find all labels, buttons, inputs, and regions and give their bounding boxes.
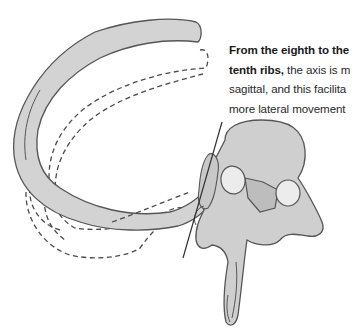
caption-line-1: From the eighth to the — [229, 40, 355, 60]
caption-line-3: sagittal, and this facilita — [229, 79, 355, 99]
figure-caption: From the eighth to the tenth ribs, the a… — [229, 40, 355, 118]
rib-icon — [14, 19, 212, 230]
caption-bold-2: tenth ribs, — [229, 63, 284, 76]
caption-bold-1: From the eighth to the — [229, 43, 349, 56]
caption-text-2: the axis is m — [284, 63, 350, 76]
caption-line-4: more lateral movement — [229, 99, 355, 119]
caption-line-2: tenth ribs, the axis is m — [229, 60, 355, 80]
